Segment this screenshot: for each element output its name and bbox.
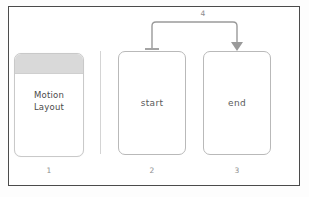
transition-index: 4 [183,9,223,18]
component-box-end[interactable]: end [203,51,271,155]
motion-layout-card-index: 1 [14,166,84,175]
component-box-end-index: 3 [203,166,271,175]
motion-editor-canvas: Motion Layout 1 start 2 end 3 4 [0,0,309,197]
motion-layout-card[interactable]: Motion Layout [14,53,84,157]
component-box-start-label: start [119,52,185,154]
motion-layout-card-header [15,54,83,74]
motion-layout-card-title: Motion Layout [15,90,83,113]
component-box-end-label: end [204,52,270,154]
panel-divider [100,51,101,154]
component-box-start-index: 2 [118,166,186,175]
component-box-start[interactable]: start [118,51,186,155]
